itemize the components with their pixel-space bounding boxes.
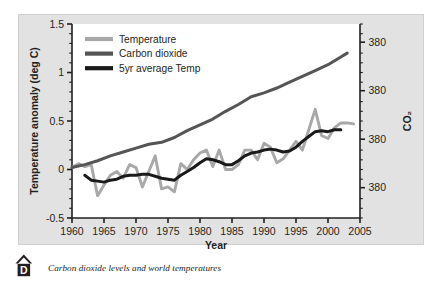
y-tick-label: 1: [58, 66, 64, 78]
legend-label: Temperature: [119, 34, 177, 45]
x-tick-label: 1985: [220, 225, 244, 237]
figure-caption-row: D Carbon dioxide levels and world temper…: [8, 251, 428, 280]
x-tick-label: 1960: [60, 225, 84, 237]
y2-tick-label: 380: [369, 181, 387, 193]
y-tick-label: 0: [58, 163, 64, 175]
badge-roof-icon: D: [10, 251, 38, 280]
legend-label: Carbon dioxide: [119, 48, 188, 59]
x-axis: 1960196519701975198019851990199520002005: [60, 218, 372, 237]
legend-label: 5yr average Temp: [119, 63, 201, 74]
x-tick-label: 1990: [252, 225, 276, 237]
x-tick-label: 1975: [156, 225, 180, 237]
y2-tick-label: 380: [369, 133, 387, 145]
figure-caption-text: Carbon dioxide levels and world temperat…: [48, 263, 221, 273]
x-tick-label: 1980: [188, 225, 212, 237]
figure-badge: D: [10, 251, 38, 280]
x-tick-label: 1995: [284, 225, 308, 237]
y-axis-left: -0.500.511.5: [46, 18, 72, 224]
figure-root: -0.500.511.5 380380380380 19601965197019…: [0, 0, 433, 282]
x-tick-label: 2000: [316, 225, 340, 237]
x-tick-label: 2005: [348, 225, 372, 237]
y-tick-label: 0.5: [49, 115, 64, 127]
y2-tick-label: 380: [369, 36, 387, 48]
x-tick-label: 1965: [92, 225, 116, 237]
y-tick-label: 1.5: [49, 18, 64, 30]
x-tick-label: 1970: [124, 225, 148, 237]
y-tick-label: -0.5: [46, 212, 64, 224]
y-axis-title: Temperature anomaly (deg C): [28, 47, 40, 194]
badge-letter: D: [20, 264, 28, 276]
x-axis-title: Year: [205, 239, 227, 251]
y2-tick-label: 380: [369, 84, 387, 96]
chart-canvas: -0.500.511.5 380380380380 19601965197019…: [0, 0, 433, 282]
y-axis-right: 380380380380: [360, 24, 386, 218]
y2-axis-title: CO₂: [401, 110, 413, 131]
